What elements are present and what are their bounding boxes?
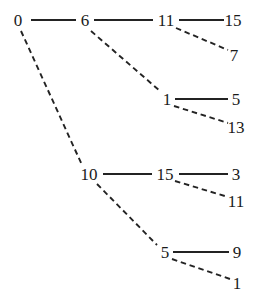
binary-tree-diagram: 061115715131015311591 — [0, 0, 256, 308]
tree-node-n14: 1 — [233, 275, 242, 292]
tree-edge-dashed — [97, 184, 157, 245]
tree-node-n12: 5 — [161, 244, 170, 261]
tree-edge-dashed — [174, 106, 228, 123]
tree-node-n9: 15 — [157, 166, 174, 183]
tree-edge-dashed — [175, 181, 228, 197]
tree-edge-dashed — [172, 259, 230, 279]
tree-node-n2: 11 — [158, 12, 174, 29]
tree-node-n6: 5 — [232, 91, 241, 108]
tree-node-n3: 15 — [225, 12, 242, 29]
tree-node-n5: 1 — [163, 91, 172, 108]
tree-node-n13: 9 — [233, 244, 242, 261]
tree-node-n11: 11 — [228, 193, 244, 210]
tree-edge-dashed — [176, 28, 228, 50]
tree-node-n0: 0 — [14, 12, 23, 29]
tree-node-n1: 6 — [81, 12, 90, 29]
tree-node-n10: 3 — [232, 166, 241, 183]
tree-node-n7: 13 — [228, 119, 245, 136]
tree-edge-dashed — [91, 31, 160, 91]
tree-edge-dashed — [21, 31, 82, 165]
tree-node-n8: 10 — [81, 166, 98, 183]
edge-layer — [0, 0, 256, 308]
tree-node-n4: 7 — [230, 47, 239, 64]
